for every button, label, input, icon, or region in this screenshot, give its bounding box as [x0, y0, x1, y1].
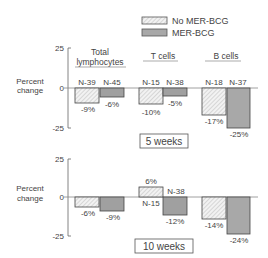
tick-0: 0	[60, 84, 65, 93]
svg-text:N-37: N-37	[229, 78, 247, 87]
group-label-t-cells: T cells	[151, 51, 175, 61]
y-axis-label: Percent	[16, 77, 44, 86]
bar-b-no-mer-bcg	[202, 88, 226, 115]
svg-text:-12%: -12%	[166, 217, 185, 226]
bar-t-no-mer-bcg	[139, 187, 163, 197]
group-label-b-cells: B cells	[213, 51, 238, 61]
bar-total-no-mer-bcg	[75, 197, 99, 207]
legend-swatch-no-mer-bcg	[142, 17, 167, 24]
svg-text:N-38: N-38	[166, 78, 184, 87]
bar-t-mer-bcg	[163, 197, 187, 215]
svg-text:-6%: -6%	[81, 209, 95, 218]
y-axis-label: Percent	[16, 184, 44, 193]
tick-25: 25	[55, 155, 64, 164]
svg-text:N-18: N-18	[205, 78, 223, 87]
svg-text:6%: 6%	[145, 177, 157, 186]
legend-label-mer-bcg: MER-BCG	[172, 28, 215, 38]
svg-text:N-15: N-15	[142, 78, 160, 87]
panel-5-weeks: 25 0 -25 Percent change Total lymphocyte…	[16, 44, 258, 148]
svg-text:N-38: N-38	[167, 187, 185, 196]
svg-text:N-15: N-15	[142, 199, 160, 208]
svg-text:-10%: -10%	[142, 108, 161, 117]
svg-text:-14%: -14%	[205, 221, 224, 230]
svg-text:-9%: -9%	[81, 105, 95, 114]
bar-t-no-mer-bcg	[139, 88, 163, 104]
svg-text:-25%: -25%	[230, 130, 249, 139]
panel-title: 5 weeks	[146, 136, 183, 147]
bar-total-mer-bcg	[100, 88, 124, 97]
bar-b-mer-bcg	[227, 197, 250, 234]
svg-text:change: change	[17, 194, 44, 203]
svg-text:change: change	[17, 86, 44, 95]
panel-10-weeks: 25 0 -25 Percent change N-15 N-38 -6% -9…	[16, 155, 258, 253]
svg-text:N-45: N-45	[103, 78, 121, 87]
tick-0: 0	[60, 193, 65, 202]
bar-total-mer-bcg	[100, 197, 124, 211]
chart-figure: No MER-BCG MER-BCG 25 0 -25 Percent chan…	[0, 0, 268, 258]
tick-25: 25	[55, 44, 64, 53]
svg-text:-9%: -9%	[106, 213, 120, 222]
bar-b-no-mer-bcg	[202, 197, 226, 219]
group-label-total: Total	[91, 47, 109, 57]
svg-text:-24%: -24%	[230, 236, 249, 245]
tick-minus-25: -25	[52, 124, 64, 133]
svg-text:N-39: N-39	[78, 78, 96, 87]
svg-text:-17%: -17%	[205, 117, 224, 126]
bar-b-mer-bcg	[227, 88, 250, 128]
bar-t-mer-bcg	[163, 88, 187, 96]
legend: No MER-BCG MER-BCG	[142, 16, 229, 38]
tick-minus-25: -25	[52, 232, 64, 241]
svg-text:lymphocytes: lymphocytes	[76, 57, 123, 67]
svg-text:-5%: -5%	[168, 99, 182, 108]
panel-title: 10 weeks	[143, 241, 185, 252]
bar-total-no-mer-bcg	[75, 88, 99, 103]
svg-text:-6%: -6%	[105, 100, 119, 109]
legend-label-no-mer-bcg: No MER-BCG	[172, 16, 229, 26]
legend-swatch-mer-bcg	[142, 29, 167, 36]
